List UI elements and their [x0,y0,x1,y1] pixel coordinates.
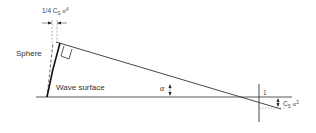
sphere-label: Sphere [16,49,42,58]
arrow-right-icon [48,22,52,25]
arrow-up-icon [277,98,280,102]
arrow-down-icon [169,92,172,96]
wave-aberration-diagram: 1/4 CSα4 Sphere Wave surface α 1 CSα3 [0,0,316,133]
arrow-down-icon [277,103,280,107]
top-dimension-label: 1/4 CSα4 [42,7,69,16]
wave-surface-label: Wave surface [56,83,105,92]
angle-alpha-label: α [160,84,165,93]
right-angle-marker [61,46,72,59]
marker-one-label: 1 [263,89,267,96]
ray-line [56,42,281,109]
arrow-left-icon [57,22,61,25]
arrow-up-icon [169,84,172,88]
right-dimension-label: CSα3 [283,100,299,109]
